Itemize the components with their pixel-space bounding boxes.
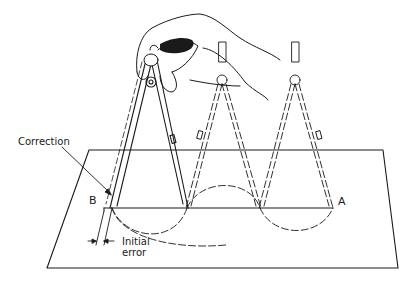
initial-error-label-line1: Initial [122,236,150,247]
paper-sheet [47,150,398,268]
dividers-diagram: Correction B A Initial error [0,0,409,283]
correction-label: Correction [18,136,70,147]
divider-middle [186,42,261,208]
initial-error-dimension [88,208,114,245]
divider-held [106,60,188,208]
point-a-label: A [338,195,346,208]
correction-leader [62,147,111,195]
initial-error-label-line2: error [122,247,147,258]
point-b-label: B [89,194,97,207]
hand [137,14,280,100]
divider-right [259,42,333,208]
